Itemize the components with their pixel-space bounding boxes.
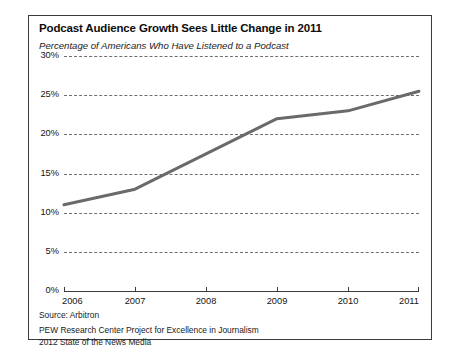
source-note: Source: Arbitron [39,310,99,320]
x-axis-tick-label: 2009 [267,297,288,306]
y-axis-tick-label: 20% [40,130,59,139]
y-axis-tick-label: 25% [40,91,59,100]
plot-area: 0%5%10%15%20%25%30% 20062007200820092010… [64,56,419,291]
x-axis-tick-label: 2008 [196,297,217,306]
x-axis [64,291,419,292]
x-axis-tick [418,287,419,291]
x-axis-tick [135,287,136,291]
x-axis-tick-label: 2007 [125,297,146,306]
credit-line-1: PEW Research Center Project for Excellen… [39,325,259,337]
y-axis-tick-label: 10% [40,208,59,217]
x-axis-tick [206,287,207,291]
y-axis-tick-label: 5% [46,247,59,256]
y-axis-tick-label: 15% [40,169,59,178]
chart-title: Podcast Audience Growth Sees Little Chan… [39,22,322,34]
x-axis-tick [277,287,278,291]
chart-figure: Podcast Audience Growth Sees Little Chan… [28,15,432,340]
x-axis-tick-label: 2006 [62,297,83,306]
credit-line-2: 2012 State of the News Media [39,337,259,349]
x-axis-tick [348,287,349,291]
y-axis-tick-label: 0% [46,286,59,295]
x-axis-tick-label: 2010 [338,297,359,306]
y-axis-tick-label: 30% [40,51,59,60]
chart-subtitle: Percentage of Americans Who Have Listene… [39,40,289,51]
podcast-listener-line-series [64,56,419,291]
credit-note: PEW Research Center Project for Excellen… [39,325,259,348]
x-axis-tick [64,287,65,291]
x-axis-tick-label: 2011 [399,297,419,306]
